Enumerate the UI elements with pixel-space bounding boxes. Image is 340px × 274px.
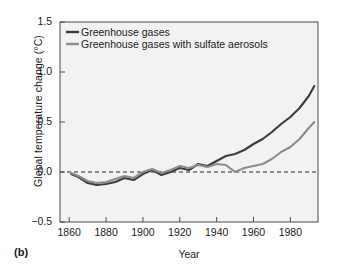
x-tick-label: 1940: [197, 226, 237, 238]
x-tick-label: 1880: [86, 226, 126, 238]
x-tick-label: 1920: [160, 226, 200, 238]
y-tick-label: 0.0: [6, 166, 52, 176]
y-tick-label: 0.5: [6, 116, 52, 126]
plot-background: [60, 22, 318, 222]
x-tick-label: 1980: [270, 226, 310, 238]
x-tick-label: 1900: [123, 226, 163, 238]
legend-label-1: Greenhouse gases: [81, 26, 170, 38]
legend-label-2: Greenhouse gases with sulfate aerosols: [81, 38, 268, 50]
y-tick-label: 1.0: [6, 66, 52, 76]
x-tick-label: 1860: [49, 226, 89, 238]
x-tick-label: 1960: [234, 226, 274, 238]
y-tick-label: 1.5: [6, 16, 52, 26]
figure-panel-b: Global temperature change (°C) Year (b) …: [0, 0, 340, 274]
y-tick-label: −0.5: [6, 216, 52, 226]
